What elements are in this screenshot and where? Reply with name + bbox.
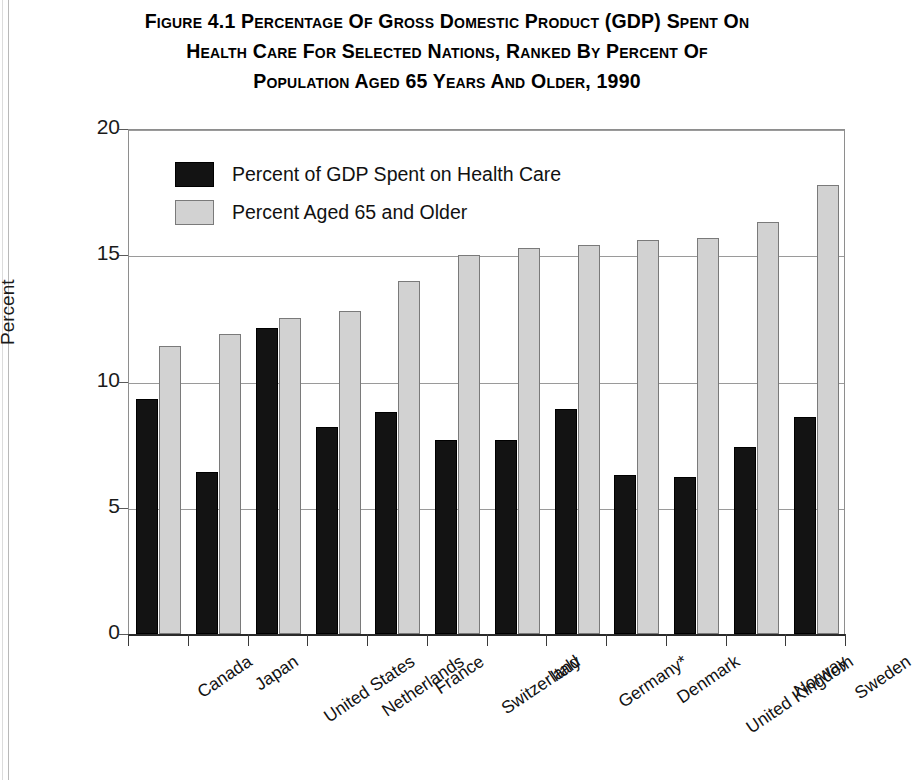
y-tick-mark-20 [119, 129, 128, 130]
x-tick-mark-1 [188, 634, 189, 646]
chart-legend: Percent of GDP Spent on Health Care Perc… [175, 162, 561, 238]
page-edge-rule-outer [2, 0, 3, 780]
y-tick-mark-15 [119, 255, 128, 256]
x-tick-mark-0 [128, 634, 129, 646]
bar-gdp-italy [495, 440, 517, 634]
bar-aged65-united-kingdom [697, 238, 719, 634]
figure-title-line-3: Population Aged 65 Years and Older, 1990 [22, 66, 872, 96]
legend-swatch-light-icon [175, 200, 214, 225]
x-tick-mark-5 [427, 634, 428, 646]
legend-swatch-dark-icon [175, 162, 214, 187]
y-tick-label-0: 0 [68, 620, 120, 644]
bar-gdp-canada [136, 399, 158, 634]
x-axis-label-japan: Japan [251, 651, 302, 695]
x-axis-label-germany: Germany* [615, 651, 692, 712]
bar-aged65-norway [757, 222, 779, 634]
y-tick-mark-10 [119, 382, 128, 383]
x-tick-mark-2 [248, 634, 249, 646]
bar-aged65-germany [578, 245, 600, 634]
y-tick-label-15: 15 [68, 241, 120, 265]
bar-aged65-france [398, 281, 420, 635]
x-tick-mark-11 [785, 634, 786, 646]
page-edge-rule [8, 0, 9, 780]
bar-aged65-italy [518, 248, 540, 634]
x-tick-mark-3 [307, 634, 308, 646]
y-tick-label-20: 20 [68, 115, 120, 139]
y-tick-mark-5 [119, 508, 128, 509]
figure-title: Figure 4.1 Percentage of Gross Domestic … [22, 6, 872, 96]
x-tick-mark-7 [546, 634, 547, 646]
bar-gdp-france [375, 412, 397, 634]
x-axis-label-canada: Canada [193, 651, 256, 703]
bar-aged65-canada [159, 346, 181, 634]
bar-gdp-norway [734, 447, 756, 634]
bar-aged65-japan [219, 334, 241, 634]
bar-aged65-denmark [637, 240, 659, 634]
bar-gdp-germany [555, 409, 577, 634]
bar-gdp-sweden [794, 417, 816, 634]
y-axis-label: Percent [0, 280, 19, 345]
x-tick-mark-8 [606, 634, 607, 646]
x-axis-label-sweden: Sweden [851, 651, 915, 704]
x-tick-mark-9 [666, 634, 667, 646]
legend-label-gdp: Percent of GDP Spent on Health Care [232, 163, 561, 186]
figure-title-line-1: Figure 4.1 Percentage of Gross Domestic … [22, 6, 872, 36]
legend-item-gdp: Percent of GDP Spent on Health Care [175, 162, 561, 187]
x-tick-mark-end [845, 634, 846, 646]
x-tick-mark-4 [367, 634, 368, 646]
bar-gdp-denmark [614, 475, 636, 634]
bar-aged65-sweden [817, 185, 839, 634]
legend-item-aged65: Percent Aged 65 and Older [175, 200, 561, 225]
x-tick-mark-10 [726, 634, 727, 646]
bar-aged65-switzerland [458, 255, 480, 634]
bar-gdp-netherlands [316, 427, 338, 634]
y-tick-label-10: 10 [68, 368, 120, 392]
legend-label-aged65: Percent Aged 65 and Older [232, 201, 467, 224]
bar-gdp-switzerland [435, 440, 457, 634]
bar-gdp-united-kingdom [674, 477, 696, 634]
y-tick-mark-0 [119, 634, 128, 635]
bar-aged65-netherlands [339, 311, 361, 634]
figure-title-line-2: Health Care for Selected Nations, Ranked… [22, 36, 872, 66]
bar-gdp-united-states [256, 328, 278, 634]
bar-aged65-united-states [279, 318, 301, 634]
x-tick-mark-6 [487, 634, 488, 646]
bar-gdp-japan [196, 472, 218, 634]
y-tick-label-5: 5 [68, 494, 120, 518]
